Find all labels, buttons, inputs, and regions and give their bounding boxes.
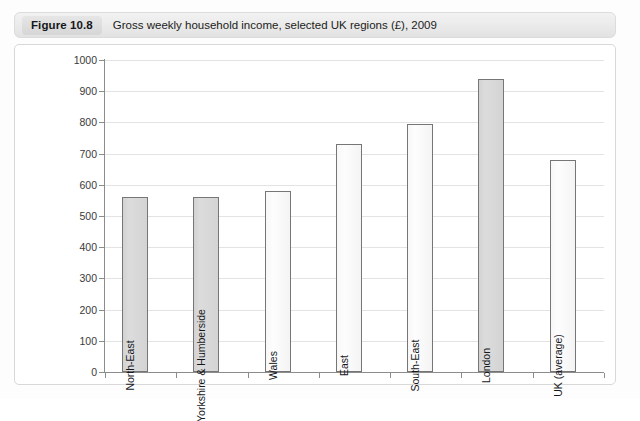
figure-number-badge: Figure 10.8 <box>22 16 102 35</box>
bar-chart-plot: 01002003004005006007008009001000 North-E… <box>15 45 617 386</box>
gridline <box>105 122 604 123</box>
x-axis-tick <box>604 373 605 378</box>
bar-category-label: Yorkshire & Humberside <box>196 309 207 421</box>
y-axis-labels-group: 01002003004005006007008009001000 <box>15 45 97 386</box>
y-axis-tick-label: 700 <box>79 148 97 160</box>
bar[interactable]: UK (average) <box>550 160 576 372</box>
y-axis-tick-label: 1000 <box>74 54 97 66</box>
y-axis-tick-label: 300 <box>79 272 97 284</box>
y-axis-tick-label: 400 <box>79 241 97 253</box>
x-axis-tick <box>319 373 320 378</box>
bar[interactable]: London <box>478 79 504 372</box>
y-axis-tick-label: 900 <box>79 85 97 97</box>
x-axis-tick <box>105 373 106 378</box>
bar[interactable]: East <box>336 144 362 372</box>
bar-category-label: South-East <box>410 339 421 391</box>
bar[interactable]: Yorkshire & Humberside <box>193 197 219 372</box>
bar-category-label: UK (average) <box>553 334 564 396</box>
bar-category-label: East <box>339 354 350 375</box>
y-axis-tick-label: 800 <box>79 116 97 128</box>
x-axis-tick <box>248 373 249 378</box>
y-axis-tick-label: 600 <box>79 179 97 191</box>
bar[interactable]: South-East <box>407 124 433 372</box>
y-axis-tick-label: 100 <box>79 335 97 347</box>
x-axis-tick <box>176 373 177 378</box>
y-axis-line <box>104 59 105 373</box>
bar[interactable]: Wales <box>265 191 291 372</box>
bar[interactable]: North-East <box>122 197 148 372</box>
figure-title: Gross weekly household income, selected … <box>113 19 437 31</box>
y-axis-tick-label: 0 <box>91 366 97 378</box>
x-axis-tick <box>461 373 462 378</box>
gridline <box>105 91 604 92</box>
x-axis-line <box>104 372 604 373</box>
bar-category-label: London <box>481 347 492 382</box>
y-axis-tick-label: 500 <box>79 210 97 222</box>
bar-category-label: Wales <box>268 351 279 380</box>
chart-frame: 01002003004005006007008009001000 North-E… <box>14 44 616 385</box>
bar-category-label: North-East <box>125 340 136 390</box>
y-axis-tick-label: 200 <box>79 304 97 316</box>
gridline <box>105 60 604 61</box>
x-axis-tick <box>533 373 534 378</box>
x-axis-tick <box>390 373 391 378</box>
figure-caption-bar: Figure 10.8 Gross weekly household incom… <box>14 12 616 38</box>
